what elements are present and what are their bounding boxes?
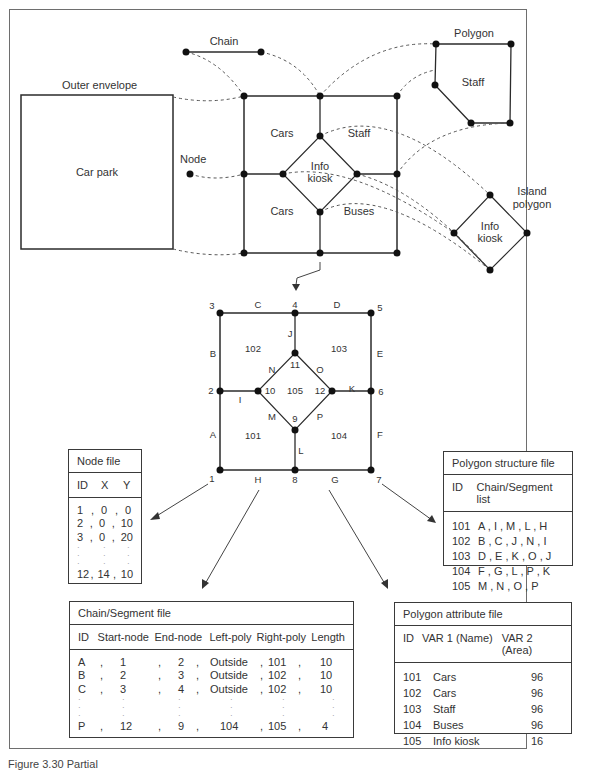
- chain-label: Chain: [210, 36, 239, 47]
- info-island-label: Info: [481, 221, 499, 232]
- node-2-label: 2: [208, 386, 213, 396]
- kiosk-island-label: kiosk: [477, 233, 502, 244]
- table-row: 105M , N , O , P: [452, 578, 564, 593]
- island-label: Island: [517, 186, 546, 197]
- table-row: 101A , I , M , L , H: [452, 518, 564, 533]
- segment-c-label: C: [255, 300, 262, 310]
- chain-segment-file-header: ID Start-node End-node Left-poly Right-p…: [70, 625, 353, 650]
- node-file-header: ID X Y: [69, 473, 141, 498]
- polygon-attribute-file-header: ID VAR 1 (Name) VAR 2 (Area): [395, 626, 571, 663]
- node-3-label: 3: [209, 301, 214, 311]
- polygon-103-label: 103: [331, 344, 347, 354]
- node-5-label: 5: [377, 303, 382, 313]
- polygon-structure-file-header: ID Chain/Segment list: [444, 475, 572, 512]
- segment-a-label: A: [210, 430, 216, 440]
- table-row: P, 12, 9, 104, 105, 4: [78, 720, 345, 734]
- staff-center-label: Staff: [348, 128, 370, 139]
- chain-segment-file-body: A, 1, 2, Outside, 101, 10 B, 2, 3, Outsi…: [70, 650, 353, 738]
- segment-j-label: J: [288, 329, 293, 339]
- buses-label: Buses: [344, 206, 375, 217]
- info-center-label: Info: [311, 161, 329, 172]
- polygon-102-label: 102: [245, 344, 261, 354]
- table-row: 105Info kiosk16: [403, 733, 563, 749]
- segment-p-label: P: [317, 412, 323, 422]
- table-row: A, 1, 2, Outside, 101, 10: [78, 655, 345, 669]
- node-1-label: 1: [209, 474, 214, 484]
- segment-l-label: L: [298, 446, 303, 456]
- staff-polygon-label: Staff: [462, 77, 484, 88]
- segment-e-label: E: [377, 349, 383, 359]
- node-4-label: 4: [292, 300, 297, 310]
- segment-n-label: N: [269, 365, 276, 375]
- segment-h-label: H: [255, 475, 262, 485]
- polygon-attribute-file-table: Polygon attribute file ID VAR 1 (Name) V…: [394, 602, 572, 734]
- table-row: 102Cars96: [403, 685, 563, 701]
- node-7-label: 7: [376, 475, 381, 485]
- table-row: 2, 0, 10: [77, 517, 133, 531]
- node-file-body: 1, 0, 0 2, 0, 10 3, 0, 20 ··· ··· ··· 12…: [69, 498, 141, 586]
- polygon-105-label: 105: [287, 386, 303, 396]
- figure-caption: Figure 3.30 Partial: [8, 758, 98, 770]
- node-file-table: Node file ID X Y 1, 0, 0 2, 0, 10 3, 0, …: [68, 449, 142, 584]
- polygon-label: Polygon: [454, 28, 494, 39]
- polygon-structure-file-table: Polygon structure file ID Chain/Segment …: [443, 451, 573, 566]
- table-row: 3, 0, 20: [77, 530, 133, 544]
- polygon-104-label: 104: [331, 431, 347, 441]
- table-row: 104F , G , L , P , K: [452, 563, 564, 578]
- node-11-label: 11: [290, 360, 300, 370]
- polygon-attribute-file-body: 101Cars96 102Cars96 103Staff96 104Buses9…: [395, 663, 571, 754]
- segment-g-label: G: [331, 475, 338, 485]
- polygon-structure-file-title: Polygon structure file: [444, 452, 572, 475]
- node-label: Node: [180, 154, 206, 165]
- node-file-title: Node file: [69, 450, 141, 473]
- kiosk-center-label: kiosk: [307, 173, 332, 184]
- polygon-structure-file-body: 101A , I , M , L , H 102B , C , J , N , …: [444, 512, 572, 598]
- island-polygon-label: polygon: [513, 199, 552, 210]
- segment-d-label: D: [334, 300, 341, 310]
- node-12-label: 12: [315, 386, 326, 396]
- table-row: 103Staff96: [403, 701, 563, 717]
- table-row: 101Cars96: [403, 669, 563, 685]
- chain-segment-file-title: Chain/Segment file: [70, 602, 353, 625]
- segment-b-label: B: [210, 349, 216, 359]
- cars-lower-label: Cars: [270, 206, 293, 217]
- chain-segment-file-table: Chain/Segment file ID Start-node End-nod…: [69, 601, 354, 738]
- cars-upper-label: Cars: [270, 128, 293, 139]
- table-row: 104Buses96: [403, 717, 563, 733]
- table-row: C, 3, 4, Outside, 102, 10: [78, 682, 345, 696]
- table-row: 1, 0, 0: [77, 503, 133, 517]
- car-park-label: Car park: [76, 167, 118, 178]
- polygon-attribute-file-title: Polygon attribute file: [395, 603, 571, 626]
- node-8-label: 8: [292, 475, 297, 485]
- node-9-label: 9: [292, 414, 297, 424]
- table-row: 12, 14, 10: [77, 568, 133, 582]
- node-10-label: 10: [265, 386, 276, 396]
- table-row: 102B , C , J , N , I: [452, 533, 564, 548]
- polygon-101-label: 101: [245, 431, 261, 441]
- node-6-label: 6: [378, 387, 383, 397]
- segment-o-label: O: [316, 365, 323, 375]
- ellipsis-rows: ··· ··· ···: [77, 544, 133, 568]
- segment-m-label: M: [268, 412, 276, 422]
- ellipsis-rows: ······ ······ ······: [78, 696, 345, 720]
- segment-k-label: K: [349, 384, 355, 394]
- outer-envelope-label: Outer envelope: [62, 80, 137, 91]
- table-row: B, 2, 3, Outside, 102, 10: [78, 669, 345, 683]
- table-row: 103D , E , K , O , J: [452, 548, 564, 563]
- segment-f-label: F: [377, 430, 383, 440]
- segment-i-label: I: [239, 395, 242, 405]
